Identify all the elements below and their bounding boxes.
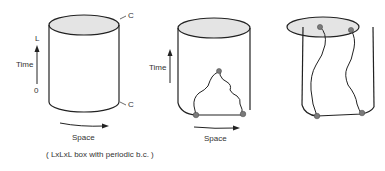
point-2-left bbox=[193, 112, 199, 118]
point-2-right bbox=[240, 111, 246, 117]
space-label-1: Space bbox=[72, 133, 95, 142]
time-axis-label-2: Time bbox=[149, 63, 166, 72]
time-axis-label-1: Time bbox=[16, 60, 33, 69]
cylinder-3 bbox=[287, 17, 374, 116]
space-label-2: Space bbox=[204, 134, 227, 143]
point-3-bottom-right bbox=[359, 110, 365, 116]
space-arrow-2 bbox=[194, 126, 240, 131]
worldline-3-right bbox=[346, 30, 361, 113]
diagram-canvas bbox=[0, 0, 385, 171]
point-3-top-right bbox=[348, 27, 353, 32]
leader-line-top bbox=[120, 16, 126, 19]
time-axis-top-tick: L bbox=[35, 34, 39, 43]
leader-line-bottom bbox=[120, 102, 126, 105]
side-label-bottom: C bbox=[128, 100, 134, 109]
side-label-top: C bbox=[128, 11, 134, 20]
caption: ( LxLxL box with periodic b.c. ) bbox=[46, 150, 154, 159]
space-arrow-1 bbox=[60, 123, 109, 129]
cylinder-2 bbox=[178, 18, 250, 115]
point-3-bottom-left bbox=[314, 113, 320, 119]
point-2-top bbox=[217, 69, 222, 74]
time-axis-bottom-tick: 0 bbox=[34, 86, 38, 95]
worldline-loop bbox=[194, 71, 244, 115]
worldline-3-left bbox=[311, 27, 326, 116]
point-3-top-left bbox=[317, 24, 322, 29]
cylinder-1 bbox=[49, 15, 119, 112]
time-arrow-2 bbox=[168, 49, 173, 83]
time-arrow-1 bbox=[35, 45, 40, 84]
